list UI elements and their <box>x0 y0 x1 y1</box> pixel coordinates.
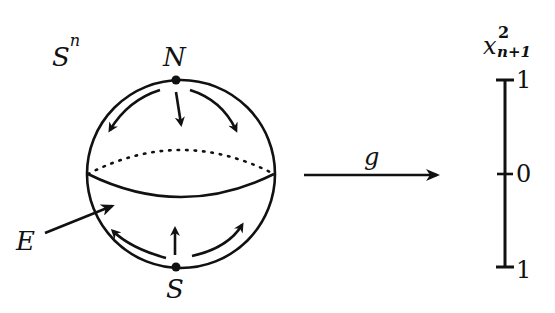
sphere-outline <box>87 80 275 268</box>
flow-arrow-south-left <box>113 231 166 258</box>
flow-arrow-north-left <box>110 90 160 130</box>
flow-arrow-north-center <box>176 92 181 124</box>
axis-tick-label-bottom: 1 <box>516 258 531 282</box>
axis-label: x 2 n+1 <box>483 26 553 62</box>
equator-back-dotted <box>88 150 274 174</box>
diagram-canvas <box>0 0 555 313</box>
axis-tick-label-top: 1 <box>516 68 531 92</box>
equator-front <box>88 174 274 197</box>
south-pole-label: S <box>166 276 184 302</box>
equator-pointer-arrow <box>45 206 112 233</box>
equator-label: E <box>16 228 35 254</box>
axis-tick-label-middle: 0 <box>516 162 531 186</box>
south-pole-dot <box>172 263 181 272</box>
axis-label-sub: n+1 <box>497 45 531 60</box>
sphere-label-base: S <box>52 42 70 72</box>
north-pole-dot <box>172 76 181 85</box>
axis-label-sup: 2 <box>498 25 509 41</box>
sphere-label-sup: n <box>70 31 80 50</box>
map-label: g <box>364 145 379 169</box>
flow-arrow-north-right <box>190 90 236 130</box>
axis-label-base: x <box>483 34 497 58</box>
sphere-label: Sn <box>52 44 80 70</box>
north-pole-label: N <box>163 44 186 70</box>
